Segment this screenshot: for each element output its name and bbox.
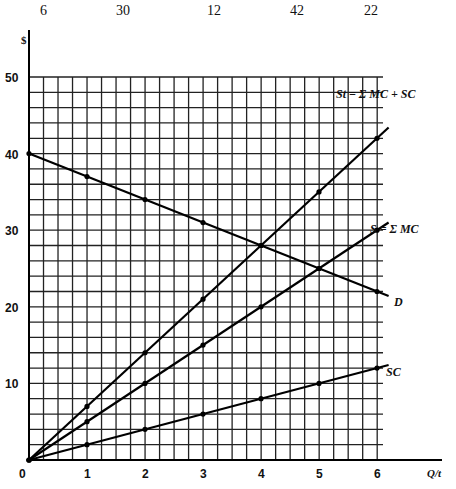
data-point — [142, 427, 147, 432]
y-tick-label: 40 — [5, 148, 19, 162]
grid — [29, 77, 383, 460]
x-tick-label: 3 — [200, 467, 207, 481]
data-point — [374, 136, 379, 141]
data-point — [258, 243, 263, 248]
x-tick-label: 1 — [84, 467, 91, 481]
series-label-s_t: St = Σ MC + SC — [336, 87, 416, 101]
data-point — [374, 289, 379, 294]
x-axis-label: Q/t — [427, 467, 442, 479]
data-point — [84, 174, 89, 179]
data-point — [200, 411, 205, 416]
x-tick-label: 0 — [19, 467, 26, 481]
series-line-s — [29, 223, 389, 460]
y-tick-label: 50 — [5, 71, 19, 85]
x-tick-label: 4 — [258, 467, 265, 481]
series-line-s_t — [29, 128, 389, 460]
data-point — [142, 350, 147, 355]
chart: 01234561020304050$Q/tDSt = Σ MC + SCS = … — [0, 0, 456, 489]
x-tick-label: 5 — [316, 467, 323, 481]
y-tick-label: 30 — [5, 224, 19, 238]
series-line-d — [29, 154, 389, 296]
y-tick-label: 20 — [5, 301, 19, 315]
y-tick-label: 10 — [5, 377, 19, 391]
data-point — [316, 381, 321, 386]
series-label-sc: SC — [386, 365, 402, 379]
x-tick-label: 6 — [374, 467, 381, 481]
data-point — [26, 151, 31, 156]
data-point — [316, 189, 321, 194]
data-point — [316, 266, 321, 271]
series-label-s: S = Σ MC — [370, 222, 420, 236]
data-point — [200, 297, 205, 302]
data-point — [26, 457, 31, 462]
series-label-d: D — [393, 295, 403, 309]
data-point — [258, 304, 263, 309]
data-point — [200, 220, 205, 225]
x-tick-label: 2 — [142, 467, 149, 481]
data-point — [258, 396, 263, 401]
data-point — [374, 365, 379, 370]
y-axis-label: $ — [21, 34, 27, 46]
data-point — [84, 442, 89, 447]
data-point — [84, 419, 89, 424]
data-point — [142, 381, 147, 386]
data-point — [84, 404, 89, 409]
data-point — [200, 343, 205, 348]
series-line-sc — [29, 365, 389, 460]
data-point — [142, 197, 147, 202]
